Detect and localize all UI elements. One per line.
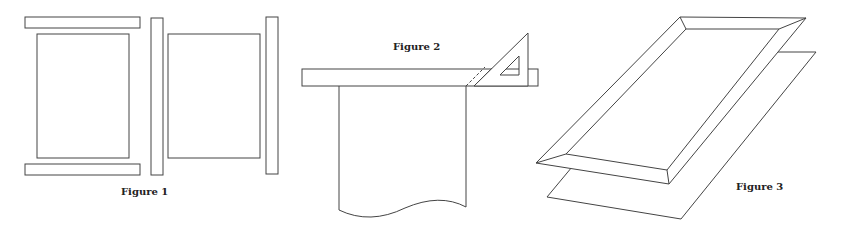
figure-1-drawing	[25, 17, 278, 175]
figure-2-drawing	[302, 33, 538, 217]
middle-stile	[151, 18, 163, 175]
frame-outer-edge	[536, 17, 806, 184]
right-panel	[168, 34, 260, 158]
set-square	[474, 33, 528, 86]
figure-2-caption: Figure 2	[393, 41, 440, 52]
paper-sheet	[339, 86, 466, 217]
right-stile	[266, 17, 278, 174]
bottom-rail	[25, 164, 140, 175]
figure-3-caption: Figure 3	[736, 181, 783, 192]
figures-drawing	[0, 0, 841, 243]
diagram-page: Figure 1 Figure 2 Figure 3	[0, 0, 841, 243]
top-rail	[25, 17, 140, 28]
left-panel	[37, 34, 129, 158]
figure-1-caption: Figure 1	[121, 186, 168, 197]
